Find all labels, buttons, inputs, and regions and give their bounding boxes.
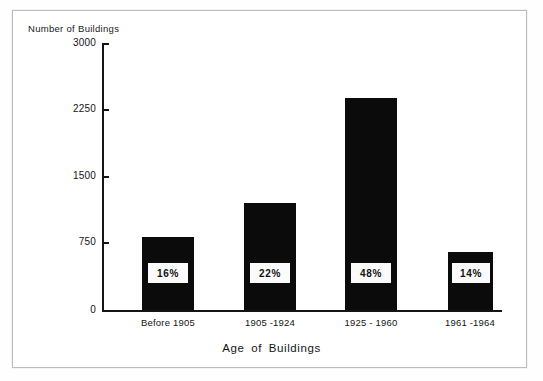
- chart-figure: Number of Buildings 3000 2250 1500 750 0…: [0, 0, 543, 381]
- bar-value-label-1961-1964: 14%: [451, 262, 491, 284]
- x-tick-label-1961-1964: 1961 -1964: [420, 317, 520, 328]
- x-axis-line: [102, 310, 502, 312]
- y-tick-mark-1500: [102, 176, 109, 178]
- x-tick-label-1925-1960: 1925 - 1960: [321, 317, 421, 328]
- y-tick-mark-2250: [102, 109, 109, 111]
- y-tick-label-2250: 2250: [38, 103, 96, 114]
- y-tick-label-3000: 3000: [38, 37, 96, 48]
- x-tick-label-1905-1924: 1905 -1924: [220, 317, 320, 328]
- y-tick-label-750: 750: [38, 236, 96, 247]
- x-tick-label-before-1905: Before 1905: [118, 317, 218, 328]
- bar-1905-1924[interactable]: [244, 203, 296, 310]
- y-tick-label-0: 0: [38, 304, 96, 315]
- x-axis-title: Age of Buildings: [0, 342, 543, 354]
- bar-value-label-before-1905: 16%: [147, 262, 189, 284]
- y-tick-mark-3000: [102, 43, 109, 45]
- y-tick-mark-750: [102, 242, 109, 244]
- bar-value-label-1905-1924: 22%: [249, 262, 291, 284]
- plot-area: 3000 2250 1500 750 0 16% Before 1905 22%…: [0, 0, 543, 381]
- y-tick-mark-0: [102, 310, 109, 312]
- bar-value-label-1925-1960: 48%: [350, 262, 392, 284]
- y-tick-label-1500: 1500: [38, 170, 96, 181]
